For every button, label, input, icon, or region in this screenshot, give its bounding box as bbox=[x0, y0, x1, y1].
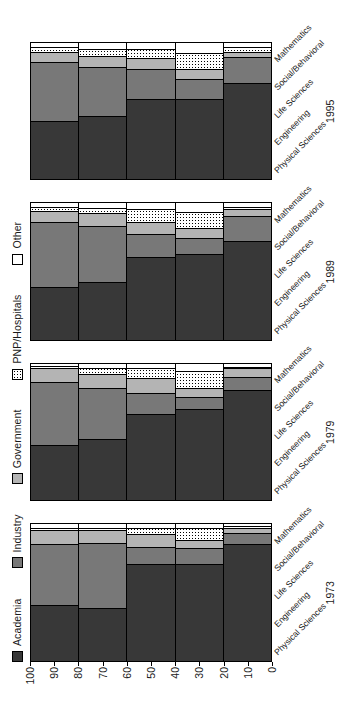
segment-pnp bbox=[176, 372, 223, 388]
y-tick-mark bbox=[78, 662, 79, 666]
legend-item-government[interactable]: Government bbox=[11, 410, 23, 485]
legend-swatch-pnp-icon bbox=[12, 369, 23, 380]
bar-1979-social-behavioral[interactable] bbox=[176, 364, 224, 501]
segment-academia bbox=[224, 84, 271, 180]
x-tick-label: Social/Behavioral bbox=[272, 359, 326, 413]
bar-1995-engineering[interactable] bbox=[79, 43, 127, 180]
segment-pnp bbox=[176, 529, 223, 541]
group-year-label: 1995 bbox=[324, 42, 336, 181]
bar-1989-life-sciences[interactable] bbox=[127, 204, 175, 341]
bar-1979-engineering[interactable] bbox=[79, 364, 127, 501]
segment-other bbox=[224, 364, 271, 368]
bar-1995-social-behavioral[interactable] bbox=[176, 43, 224, 180]
segment-industry bbox=[79, 68, 126, 117]
legend-item-academia[interactable]: Academia bbox=[11, 599, 23, 663]
segment-industry bbox=[79, 227, 126, 283]
legend-label: PNP/Hospitals bbox=[11, 295, 23, 364]
x-tick-label: Physical Sciences bbox=[272, 440, 328, 496]
segment-pnp bbox=[224, 48, 271, 52]
bar-1973-social-behavioral[interactable] bbox=[176, 525, 224, 662]
percent-axis: Percent 0102030405060708090100 bbox=[30, 662, 272, 708]
axis-group-1973: Physical SciencesEngineeringLife Science… bbox=[272, 524, 342, 663]
bar-1979-mathematics[interactable] bbox=[224, 364, 271, 501]
bar-1973-engineering[interactable] bbox=[79, 525, 127, 662]
segment-other bbox=[224, 525, 271, 528]
bar-1973-physical-sciences[interactable] bbox=[31, 525, 79, 662]
segment-industry bbox=[224, 217, 271, 242]
segment-academia bbox=[79, 440, 126, 500]
category-axis: Physical SciencesEngineeringLife Science… bbox=[272, 42, 342, 662]
bar-1995-physical-sciences[interactable] bbox=[31, 43, 79, 180]
axis-group-1995: Physical SciencesEngineeringLife Science… bbox=[272, 42, 342, 181]
segment-government bbox=[127, 223, 174, 235]
segment-academia bbox=[176, 565, 223, 661]
stacked-bar-chart: AcademiaIndustryGovernmentPNP/HospitalsO… bbox=[0, 0, 362, 708]
segment-industry bbox=[176, 80, 223, 100]
segment-academia bbox=[224, 545, 271, 661]
segment-pnp bbox=[79, 50, 126, 57]
segment-government bbox=[224, 210, 271, 217]
segment-industry bbox=[127, 235, 174, 258]
bar-group-1995 bbox=[30, 42, 272, 181]
segment-government bbox=[79, 57, 126, 68]
y-tick-mark bbox=[127, 662, 128, 666]
x-tick-label: Physical Sciences bbox=[272, 601, 328, 657]
y-tick-mark bbox=[272, 662, 273, 666]
bar-1989-social-behavioral[interactable] bbox=[176, 204, 224, 341]
legend-item-pnp[interactable]: PNP/Hospitals bbox=[11, 295, 23, 380]
segment-academia bbox=[127, 565, 174, 661]
rotated-figure: AcademiaIndustryGovernmentPNP/HospitalsO… bbox=[0, 0, 362, 708]
segment-industry bbox=[79, 544, 126, 610]
segment-pnp bbox=[224, 527, 271, 528]
y-tick-label: 60 bbox=[121, 667, 133, 679]
segment-government bbox=[127, 535, 174, 547]
bar-group-1989 bbox=[30, 203, 272, 342]
segment-pnp bbox=[31, 48, 78, 52]
segment-industry bbox=[224, 534, 271, 545]
y-tick-mark bbox=[54, 662, 55, 666]
legend-label: Academia bbox=[11, 599, 23, 647]
segment-industry bbox=[31, 383, 78, 446]
segment-other bbox=[127, 364, 174, 369]
bar-1989-mathematics[interactable] bbox=[224, 204, 271, 341]
segment-pnp bbox=[176, 213, 223, 229]
group-year-label: 1973 bbox=[324, 524, 336, 663]
bar-group-1973 bbox=[30, 524, 272, 663]
segment-other bbox=[127, 525, 174, 529]
segment-government bbox=[224, 529, 271, 534]
segment-industry bbox=[176, 398, 223, 410]
y-tick-mark bbox=[248, 662, 249, 666]
segment-pnp bbox=[79, 370, 126, 375]
segment-government bbox=[176, 70, 223, 80]
segment-industry bbox=[79, 389, 126, 441]
segment-academia bbox=[79, 283, 126, 340]
segment-pnp bbox=[79, 209, 126, 214]
bar-1989-engineering[interactable] bbox=[79, 204, 127, 341]
segment-other bbox=[176, 204, 223, 214]
segment-government bbox=[31, 531, 78, 545]
bar-1973-mathematics[interactable] bbox=[224, 525, 271, 662]
legend-label: Other bbox=[11, 222, 23, 249]
segment-academia bbox=[31, 122, 78, 179]
segment-government bbox=[127, 379, 174, 394]
segment-pnp bbox=[224, 208, 271, 211]
segment-pnp bbox=[127, 370, 174, 380]
bar-1979-physical-sciences[interactable] bbox=[31, 364, 79, 501]
y-tick-mark bbox=[151, 662, 152, 666]
legend-item-industry[interactable]: Industry bbox=[11, 514, 23, 568]
segment-other bbox=[79, 525, 126, 529]
segment-other bbox=[127, 204, 174, 211]
bar-1995-mathematics[interactable] bbox=[224, 43, 271, 180]
bar-1979-life-sciences[interactable] bbox=[127, 364, 175, 501]
x-tick-label: Social/Behavioral bbox=[272, 38, 326, 92]
bar-1995-life-sciences[interactable] bbox=[127, 43, 175, 180]
legend-swatch-industry-icon bbox=[12, 558, 23, 569]
segment-government bbox=[224, 369, 271, 377]
y-tick-label: 10 bbox=[242, 667, 254, 679]
y-tick-label: 0 bbox=[266, 667, 278, 673]
legend-item-other[interactable]: Other bbox=[11, 222, 23, 265]
y-tick-label: 80 bbox=[72, 667, 84, 679]
bar-1973-life-sciences[interactable] bbox=[127, 525, 175, 662]
segment-other bbox=[31, 525, 78, 529]
bar-1989-physical-sciences[interactable] bbox=[31, 204, 79, 341]
